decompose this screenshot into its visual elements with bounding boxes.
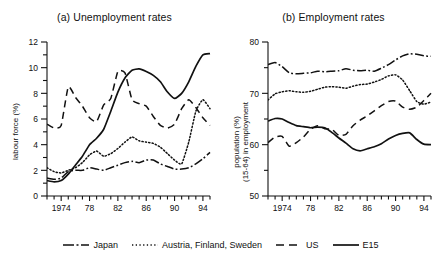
svg-text:78: 78: [85, 203, 95, 213]
legend-swatch-us: [276, 241, 302, 249]
svg-text:80: 80: [250, 37, 260, 47]
panel-a-plot-area: 02468101219747882869094: [0, 0, 221, 230]
svg-text:90: 90: [170, 203, 180, 213]
svg-text:1974: 1974: [273, 203, 292, 213]
panel-employment-rates: (b) Employment rates 5060708019747882869…: [221, 0, 442, 230]
svg-text:60: 60: [250, 140, 260, 150]
svg-text:4: 4: [33, 140, 38, 150]
svg-text:0: 0: [33, 191, 38, 201]
svg-text:50: 50: [250, 191, 260, 201]
figure-unemployment-employment-rates: (a) Unemployment rates labour force (%) …: [0, 0, 442, 256]
chart-legend: Japan Austria, Finland, Sweden US E15: [0, 236, 442, 254]
legend-item-austria-finland-sweden: Austria, Finland, Sweden: [132, 240, 262, 250]
legend-item-us: US: [276, 240, 319, 250]
svg-text:94: 94: [198, 203, 208, 213]
legend-swatch-japan: [63, 241, 89, 249]
svg-text:1974: 1974: [52, 203, 71, 213]
legend-label-austria-finland-sweden: Austria, Finland, Sweden: [162, 240, 262, 250]
panel-b-y-axis-label-line2: (15-64) in employment: [241, 102, 250, 182]
legend-label-e15: E15: [363, 240, 379, 250]
svg-text:6: 6: [33, 114, 38, 124]
legend-item-japan: Japan: [63, 240, 118, 250]
svg-text:86: 86: [362, 203, 372, 213]
legend-label-us: US: [306, 240, 319, 250]
svg-text:70: 70: [250, 89, 260, 99]
svg-text:10: 10: [29, 63, 39, 73]
legend-swatch-austria-finland-sweden: [132, 241, 158, 249]
svg-text:12: 12: [29, 37, 39, 47]
svg-text:2: 2: [33, 166, 38, 176]
legend-swatch-e15: [333, 241, 359, 249]
svg-text:82: 82: [113, 203, 123, 213]
legend-label-japan: Japan: [93, 240, 118, 250]
svg-text:82: 82: [334, 203, 344, 213]
panel-b-y-axis-label: population (%) (15-64) in employment: [232, 102, 250, 182]
svg-text:94: 94: [419, 203, 429, 213]
svg-text:8: 8: [33, 89, 38, 99]
panel-b-plot-area: 5060708019747882869094: [221, 0, 442, 230]
panel-b-y-axis-label-line1: population (%): [232, 102, 241, 182]
svg-text:90: 90: [391, 203, 401, 213]
panel-unemployment-rates: (a) Unemployment rates labour force (%) …: [0, 0, 221, 230]
legend-item-e15: E15: [333, 240, 379, 250]
svg-text:86: 86: [141, 203, 151, 213]
svg-text:78: 78: [306, 203, 316, 213]
